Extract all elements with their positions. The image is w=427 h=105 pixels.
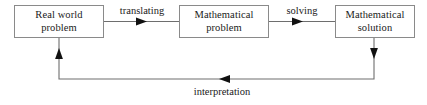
edge-interpretation-left-arrowhead-icon	[219, 75, 230, 83]
node-real-world-problem-line1: Real world	[35, 9, 82, 22]
node-real-world-problem[interactable]: Real world problem	[14, 5, 104, 38]
edge-label-interpretation: interpretation	[182, 86, 262, 98]
node-mathematical-solution-line2: solution	[358, 22, 393, 35]
edge-interpretation-up-arrowhead-icon	[55, 48, 63, 59]
edge-translating-connector	[104, 18, 179, 26]
modelling-cycle-diagram: Real world problem Mathematical problem …	[0, 0, 427, 105]
edge-label-translating: translating	[107, 5, 177, 17]
edge-translating-arrowhead-icon	[136, 18, 147, 26]
node-mathematical-problem-line1: Mathematical	[195, 9, 254, 22]
node-real-world-problem-line2: problem	[41, 22, 77, 35]
node-mathematical-solution[interactable]: Mathematical solution	[335, 5, 415, 38]
node-mathematical-solution-line1: Mathematical	[346, 9, 405, 22]
edge-interpretation-line	[59, 38, 374, 79]
edge-interpretation-down-arrowhead-icon	[370, 48, 378, 59]
edge-solving-connector	[269, 18, 335, 26]
edge-label-solving: solving	[272, 5, 332, 17]
node-mathematical-problem-line2: problem	[206, 22, 242, 35]
node-mathematical-problem[interactable]: Mathematical problem	[179, 5, 269, 38]
edge-interpretation-connector	[55, 38, 378, 83]
edge-solving-arrowhead-icon	[292, 18, 303, 26]
